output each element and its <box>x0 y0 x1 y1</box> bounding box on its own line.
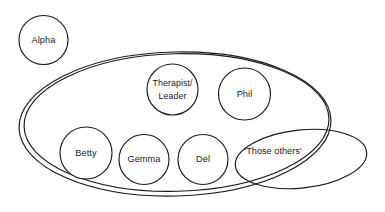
node-therapist-leader-label-line1: Therapist/ <box>152 78 193 88</box>
those-others-label: ‘Those others’ <box>244 146 302 156</box>
group-membership-diagram: Alpha Therapist/ Leader Phil Betty Gemma… <box>0 0 385 212</box>
node-gemma-label: Gemma <box>127 154 161 164</box>
node-alpha-label: Alpha <box>32 35 57 45</box>
diagram-canvas: Alpha Therapist/ Leader Phil Betty Gemma… <box>0 0 385 212</box>
node-betty-label: Betty <box>75 148 97 158</box>
node-therapist-leader-circle[interactable] <box>147 64 198 115</box>
node-del-label: Del <box>196 154 210 164</box>
node-phil-label: Phil <box>237 89 253 99</box>
node-therapist-leader-label-line2: Leader <box>159 91 187 101</box>
